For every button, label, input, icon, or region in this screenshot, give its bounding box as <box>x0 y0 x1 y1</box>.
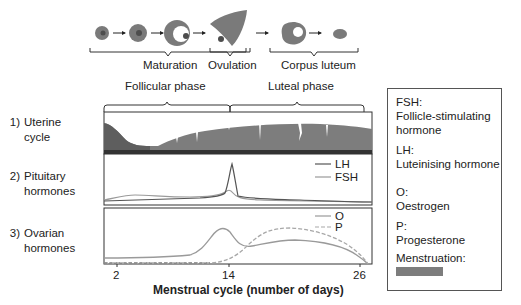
stage-label-ovulation: Ovulation <box>208 58 257 72</box>
uterine-panel <box>104 112 372 154</box>
follicle-stages <box>95 10 347 46</box>
legend-o-full: Oestrogen <box>396 199 501 213</box>
row-label-uterine: 1)Uterine cycle <box>0 115 61 145</box>
menstruation-swatch <box>396 267 443 276</box>
legend-lh-full: Luteinising hormone <box>396 157 501 171</box>
x-tick-2: 2 <box>113 268 119 282</box>
phase-label-follicular: Follicular phase <box>125 79 206 93</box>
legend-menstruation: Menstruation: <box>396 251 501 265</box>
phase-braces <box>104 102 364 112</box>
stage-label-corpus-luteum: Corpus luteum <box>281 58 356 72</box>
legend-fsh-full-1: Follicle-stimulating <box>396 109 501 123</box>
stage-label-maturation: Maturation <box>143 58 197 72</box>
legend-p-full: Progesterone <box>396 233 501 247</box>
row-number: 1) <box>0 115 20 130</box>
row-title-line2: hormones <box>0 184 75 199</box>
legend-p-abbr: P: <box>396 219 501 233</box>
legend-fsh-abbr: FSH: <box>396 95 501 109</box>
row-title-line1: Ovarian <box>24 227 64 239</box>
row-title-line1: Pituitary <box>24 170 66 182</box>
legend-fsh: FSH <box>335 170 358 184</box>
row-number: 3) <box>0 226 20 241</box>
row-title-line2: hormones <box>0 241 75 256</box>
legend-p: P <box>335 220 343 234</box>
row-title-line2: cycle <box>0 130 61 145</box>
pituitary-panel <box>104 154 372 205</box>
row-label-ovarian: 3)Ovarian hormones <box>0 226 75 256</box>
legend-lh-abbr: LH: <box>396 143 501 157</box>
row-title-line1: Uterine <box>24 116 61 128</box>
ovarian-panel <box>104 208 372 264</box>
legend-lh: LH <box>335 157 350 171</box>
phase-label-luteal: Luteal phase <box>268 79 334 93</box>
x-tick-14: 14 <box>222 268 235 282</box>
row-label-pituitary: 2)Pituitary hormones <box>0 169 75 199</box>
row-number: 2) <box>0 169 20 184</box>
legend-o-abbr: O: <box>396 185 501 199</box>
stage-braces <box>90 48 358 56</box>
x-tick-26: 26 <box>353 268 366 282</box>
legend-fsh-full-2: hormone <box>396 123 501 137</box>
abbreviation-legend: FSH: Follicle-stimulating hormone LH: Lu… <box>387 88 502 291</box>
x-axis-title: Menstrual cycle (number of days) <box>153 283 344 297</box>
